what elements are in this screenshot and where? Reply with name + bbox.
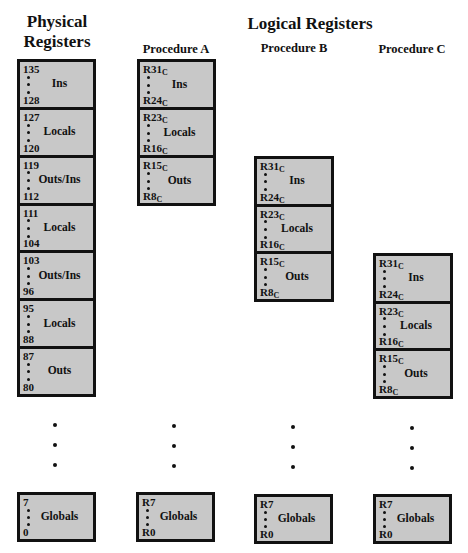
register-block-locals: R23CR16CLocals	[376, 304, 450, 352]
block-label: Locals	[257, 222, 331, 234]
range-low-label: R8C	[379, 384, 398, 395]
range-high-label: R23C	[260, 209, 285, 220]
range-low-label: R16C	[260, 239, 285, 250]
range-high-label: 135	[23, 64, 40, 75]
block-label: Globals	[20, 510, 93, 522]
title-line-1: Physical	[8, 12, 106, 32]
procedure-a-globals-box: R7R0Globals	[136, 492, 215, 542]
range-low-label: R0	[379, 529, 392, 540]
logical-registers-title: Logical Registers	[235, 14, 385, 34]
register-block-locals: 9588Locals	[20, 301, 93, 349]
procedure-c-window: R31CR24CInsR23CR16CLocalsR15CR8COuts	[373, 253, 453, 399]
register-block-ins: R31CR24CIns	[257, 159, 331, 207]
range-high-label: 7	[23, 497, 29, 508]
block-label: Outs/Ins	[20, 173, 93, 185]
range-high-label: R15C	[379, 353, 404, 364]
block-label: Ins	[20, 77, 93, 89]
block-label: Ins	[376, 271, 450, 283]
block-label: Globals	[139, 510, 212, 522]
vertical-ellipsis-dot	[264, 236, 267, 239]
procedure-c-title: Procedure C	[366, 42, 458, 56]
range-high-label: 95	[23, 303, 34, 314]
register-block-outs-ins: 119112Outs/Ins	[20, 158, 93, 206]
range-high-label: R15C	[143, 160, 168, 171]
physical-register-stack: 135128Ins127120Locals119112Outs/Ins11110…	[17, 59, 96, 397]
physical-globals-box: 70Globals	[17, 492, 96, 542]
procedure-a-title: Procedure A	[130, 42, 222, 56]
register-block-globals: R7R0Globals	[376, 497, 449, 541]
range-high-label: R31C	[260, 161, 285, 172]
range-low-label: R0	[142, 527, 155, 538]
block-label: Globals	[376, 512, 449, 524]
vertical-ellipsis-dot	[383, 285, 386, 288]
vertical-ellipsis-dot	[27, 235, 30, 238]
range-high-label: 127	[23, 112, 40, 123]
block-label: Locals	[20, 125, 93, 137]
range-low-label: 88	[23, 334, 34, 345]
range-high-label: R23C	[143, 112, 168, 123]
block-label: Ins	[140, 78, 213, 90]
register-block-ins: 135128Ins	[20, 62, 93, 110]
title-line-2: Registers	[8, 32, 106, 52]
range-low-label: 80	[23, 382, 34, 393]
range-low-label: R8C	[260, 287, 279, 298]
block-label: Globals	[257, 512, 330, 524]
range-high-label: R7	[142, 497, 155, 508]
register-block-outs: R15CR8COuts	[376, 351, 450, 396]
range-low-label: 104	[23, 238, 40, 249]
register-block-locals: R23CR16CLocals	[257, 207, 331, 255]
range-low-label: R8C	[143, 191, 162, 202]
range-low-label: 96	[23, 286, 34, 297]
range-low-label: R0	[260, 529, 273, 540]
vertical-ellipsis-dot	[383, 333, 386, 336]
range-high-label: 119	[23, 160, 39, 171]
register-block-locals: 111104Locals	[20, 206, 93, 254]
procedure-b-title: Procedure B	[248, 41, 340, 55]
vertical-ellipsis-dot	[27, 187, 30, 190]
block-label: Outs	[20, 364, 93, 376]
procedure-b-globals-box: R7R0Globals	[254, 494, 333, 544]
range-low-label: R24C	[379, 289, 404, 300]
block-label: Locals	[20, 317, 93, 329]
range-high-label: 87	[23, 351, 34, 362]
block-label: Outs/Ins	[20, 269, 93, 281]
block-label: Ins	[257, 174, 331, 186]
procedure-a-window: R31CR24CInsR23CR16CLocalsR15CR8COuts	[137, 59, 216, 206]
vertical-ellipsis-dot	[264, 188, 267, 191]
vertical-ellipsis-dot	[27, 139, 30, 142]
block-label: Outs	[257, 270, 331, 282]
block-label: Locals	[20, 221, 93, 233]
range-low-label: R24C	[143, 95, 168, 106]
block-label: Locals	[140, 126, 213, 138]
block-label: Locals	[376, 319, 450, 331]
register-block-outs: 8780Outs	[20, 349, 93, 394]
register-block-locals: 127120Locals	[20, 110, 93, 158]
procedure-b-window: R31CR24CInsR23CR16CLocalsR15CR8COuts	[254, 156, 334, 302]
range-high-label: R15C	[260, 256, 285, 267]
block-label: Outs	[140, 174, 213, 186]
register-block-globals: R7R0Globals	[257, 497, 330, 541]
range-low-label: R24C	[260, 192, 285, 203]
range-high-label: R7	[379, 499, 392, 510]
range-high-label: 103	[23, 255, 40, 266]
range-low-label: R16C	[379, 336, 404, 347]
range-high-label: R31C	[143, 64, 168, 75]
range-low-label: 128	[23, 95, 40, 106]
range-high-label: R31C	[379, 258, 404, 269]
register-block-outs-ins: 10396Outs/Ins	[20, 253, 93, 301]
register-block-ins: R31CR24CIns	[140, 62, 213, 110]
range-low-label: R16C	[143, 143, 168, 154]
physical-registers-title: Physical Registers	[8, 12, 106, 52]
range-low-label: 0	[23, 527, 29, 538]
range-low-label: 120	[23, 143, 40, 154]
procedure-c-globals-box: R7R0Globals	[373, 494, 452, 544]
register-block-globals: 70Globals	[20, 495, 93, 539]
register-block-locals: R23CR16CLocals	[140, 110, 213, 158]
range-low-label: 112	[23, 191, 39, 202]
register-block-ins: R31CR24CIns	[376, 256, 450, 304]
range-high-label: 111	[23, 208, 38, 219]
register-block-outs: R15CR8COuts	[140, 158, 213, 203]
block-label: Outs	[376, 367, 450, 379]
range-high-label: R7	[260, 499, 273, 510]
range-high-label: R23C	[379, 306, 404, 317]
